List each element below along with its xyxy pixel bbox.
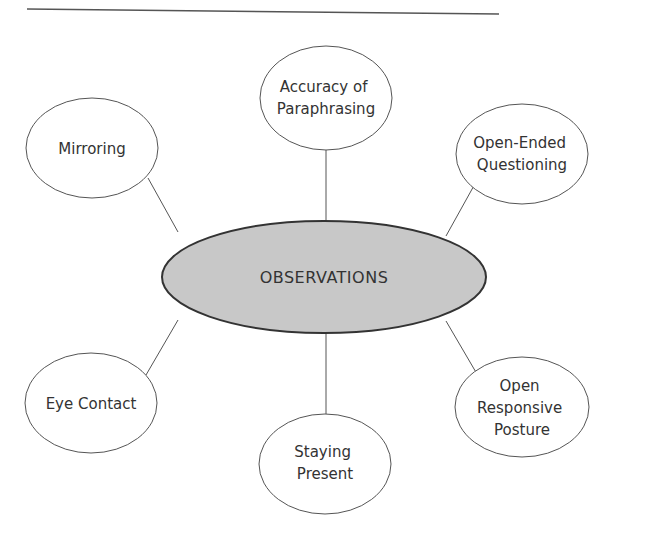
node-accuracy-of-paraphrasing: Accuracy of Paraphrasing [260, 46, 392, 150]
connector-open-ended [446, 182, 476, 236]
observations-diagram: OBSERVATIONS Accuracy of Paraphrasing Mi… [0, 0, 649, 541]
svg-text:Eye Contact: Eye Contact [46, 395, 137, 413]
node-label-line: Open [500, 377, 540, 395]
node-label-line: Mirroring [58, 140, 125, 158]
top-rule [27, 9, 499, 14]
node-label-line: Eye Contact [46, 395, 137, 413]
node-mirroring: Mirroring [26, 98, 158, 198]
node-label-line: Staying [294, 443, 351, 461]
node-eye-contact: Eye Contact [25, 353, 157, 453]
node-label-line: Paraphrasing [277, 100, 375, 118]
svg-text:Mirroring: Mirroring [58, 140, 125, 158]
node-label-line: Open-Ended [473, 134, 566, 152]
node-open-responsive-posture: Open Responsive Posture [455, 357, 589, 457]
connector-mirroring [148, 178, 178, 232]
node-label-line: Accuracy of [280, 78, 368, 96]
center-label: OBSERVATIONS [260, 268, 389, 287]
node-label-line: Posture [494, 421, 550, 439]
node-label-line: Questioning [477, 156, 567, 174]
node-staying-present: Staying Present [259, 414, 391, 514]
connector-open-responsive [446, 321, 477, 374]
connector-eye-contact [146, 320, 178, 375]
center-node: OBSERVATIONS [162, 221, 486, 333]
node-label-line: Responsive [477, 399, 562, 417]
node-label-line: Present [297, 465, 353, 483]
node-open-ended-questioning: Open-Ended Questioning [456, 104, 588, 204]
